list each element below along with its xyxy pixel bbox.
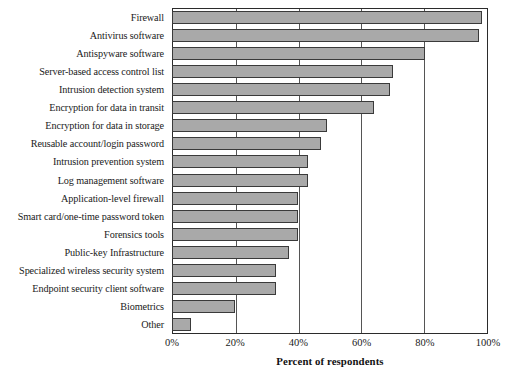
bar	[172, 83, 390, 96]
x-axis-title: Percent of respondents	[172, 355, 488, 367]
category-label: Firewall	[0, 8, 168, 26]
bar-row	[172, 189, 488, 207]
category-label: Log management software	[0, 171, 168, 189]
bar	[172, 192, 298, 205]
category-axis-labels: FirewallAntivirus softwareAntispyware so…	[0, 8, 168, 334]
bar-row	[172, 62, 488, 80]
category-label: Smart card/one-time password token	[0, 207, 168, 225]
bars-layer	[172, 8, 488, 334]
bar	[172, 174, 308, 187]
bar	[172, 282, 276, 295]
bar-row	[172, 225, 488, 243]
bar	[172, 264, 276, 277]
x-axis-tick-labels: 0%20%40%60%80%100%	[0, 337, 512, 353]
category-label: Antivirus software	[0, 26, 168, 44]
bar	[172, 210, 298, 223]
x-tick-label: 40%	[289, 337, 308, 348]
category-label: Intrusion detection system	[0, 80, 168, 98]
bar	[172, 65, 393, 78]
bar	[172, 119, 327, 132]
bar-row	[172, 207, 488, 225]
bar-row	[172, 262, 488, 280]
category-label: Intrusion prevention system	[0, 153, 168, 171]
category-label: Server-based access control list	[0, 62, 168, 80]
x-tick-label: 80%	[415, 337, 434, 348]
bar-row	[172, 153, 488, 171]
bar-row	[172, 117, 488, 135]
bar	[172, 155, 308, 168]
bar-row	[172, 280, 488, 298]
category-label: Encryption for data in transit	[0, 99, 168, 117]
bar-row	[172, 243, 488, 261]
category-label: Encryption for data in storage	[0, 117, 168, 135]
bar-row	[172, 80, 488, 98]
bar-row	[172, 316, 488, 334]
x-tick-label: 100%	[476, 337, 501, 348]
x-tick-label: 20%	[226, 337, 245, 348]
bar	[172, 318, 191, 331]
bar	[172, 246, 289, 259]
bar-row	[172, 298, 488, 316]
x-tick-label: 0%	[165, 337, 179, 348]
bar-row	[172, 171, 488, 189]
category-label: Specialized wireless security system	[0, 262, 168, 280]
category-label: Endpoint security client software	[0, 280, 168, 298]
category-label: Application-level firewall	[0, 189, 168, 207]
category-label: Antispyware software	[0, 44, 168, 62]
bar	[172, 228, 298, 241]
bar	[172, 300, 235, 313]
bar-chart: FirewallAntivirus softwareAntispyware so…	[0, 0, 512, 386]
bar-row	[172, 26, 488, 44]
bar	[172, 29, 479, 42]
bar	[172, 137, 321, 150]
bar	[172, 47, 425, 60]
bar	[172, 101, 374, 114]
category-label: Public-key Infrastructure	[0, 243, 168, 261]
bar-row	[172, 8, 488, 26]
category-label: Reusable account/login password	[0, 135, 168, 153]
category-label: Forensics tools	[0, 225, 168, 243]
bar-row	[172, 135, 488, 153]
category-label: Biometrics	[0, 298, 168, 316]
x-tick-label: 60%	[352, 337, 371, 348]
bar-row	[172, 99, 488, 117]
category-label: Other	[0, 316, 168, 334]
bar	[172, 11, 482, 24]
bar-row	[172, 44, 488, 62]
